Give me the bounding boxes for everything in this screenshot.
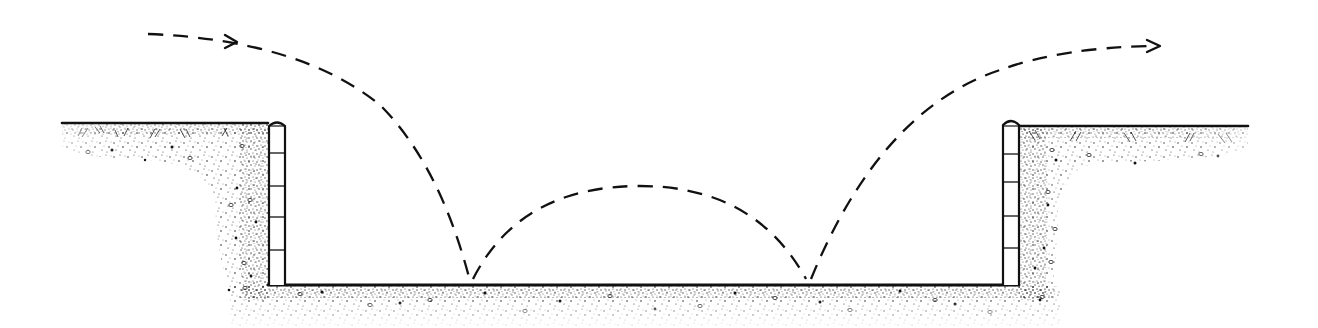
- right-soil: [1019, 126, 1318, 300]
- pit-floor-soil: [230, 286, 1060, 328]
- pit-bounce-diagram: [0, 0, 1318, 328]
- left-soil: [0, 124, 268, 300]
- trajectory-middle-arc: [473, 186, 806, 279]
- left-wall: [269, 123, 285, 286]
- exit-arrow-icon: [1147, 40, 1160, 52]
- trajectory-exit-arc: [811, 46, 1150, 279]
- trajectory: [148, 34, 1150, 281]
- right-wall: [1003, 121, 1019, 285]
